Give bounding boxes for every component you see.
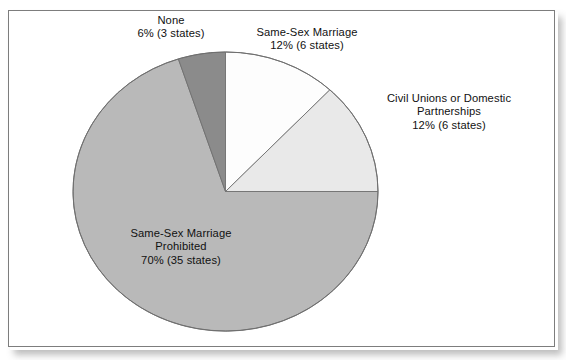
pie-label-same-sex-marriage-line1: Same-Sex Marriage: [228, 26, 386, 39]
pie-label-same-sex-marriage-line2: 12% (6 states): [228, 39, 386, 52]
pie-label-same-sex-marriage-prohibited: Same-Sex Marriage Prohibited 70% (35 sta…: [96, 227, 266, 267]
pie-label-prohibited-line3: 70% (35 states): [96, 254, 266, 267]
pie-label-same-sex-marriage: Same-Sex Marriage 12% (6 states): [228, 26, 386, 53]
pie-chart-plot-area: None 6% (3 states) Same-Sex Marriage 12%…: [0, 0, 566, 360]
pie-label-civil-unions-or-domestic-partnerships: Civil Unions or Domestic Partnerships 12…: [346, 92, 552, 132]
pie-label-none-line1: None: [112, 14, 230, 27]
pie-label-civil-unions-line2: Partnerships: [346, 105, 552, 118]
pie-label-prohibited-line2: Prohibited: [96, 240, 266, 253]
pie-label-civil-unions-line1: Civil Unions or Domestic: [346, 92, 552, 105]
pie-label-none: None 6% (3 states): [112, 14, 230, 41]
pie-label-none-line2: 6% (3 states): [112, 27, 230, 40]
figure-root: None 6% (3 states) Same-Sex Marriage 12%…: [0, 0, 566, 360]
pie-label-civil-unions-line3: 12% (6 states): [346, 119, 552, 132]
pie-chart-svg: [0, 0, 566, 360]
pie-label-prohibited-line1: Same-Sex Marriage: [96, 227, 266, 240]
